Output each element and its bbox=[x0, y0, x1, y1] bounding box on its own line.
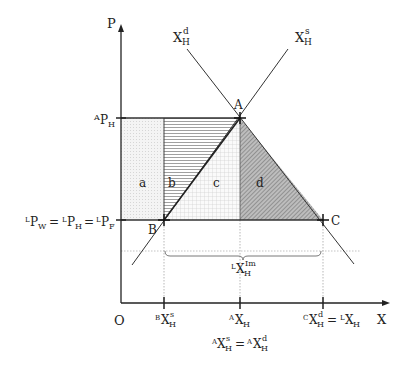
svg-text:H: H bbox=[182, 37, 190, 47]
C-demand-quantity-label: C X d H = L X H bbox=[303, 310, 360, 329]
svg-text:H: H bbox=[225, 344, 232, 353]
B-supply-quantity-label: B X s H bbox=[155, 310, 176, 329]
svg-text:d: d bbox=[183, 26, 189, 36]
svg-text:s: s bbox=[226, 334, 230, 343]
svg-text:P: P bbox=[101, 215, 109, 229]
point-B-label: B bbox=[148, 223, 157, 237]
area-a-label: a bbox=[139, 176, 146, 190]
svg-text:H: H bbox=[169, 320, 176, 329]
y-axis-label: P bbox=[107, 16, 116, 31]
point-C-label: C bbox=[331, 214, 340, 228]
imports-brace bbox=[165, 251, 321, 260]
svg-text:Im: Im bbox=[245, 259, 256, 268]
svg-text:d: d bbox=[318, 310, 323, 319]
svg-text:H: H bbox=[261, 344, 268, 353]
svg-text:B: B bbox=[155, 314, 160, 322]
svg-text:=: = bbox=[84, 215, 94, 229]
svg-text:=: = bbox=[235, 337, 245, 351]
svg-text:P: P bbox=[30, 215, 38, 229]
svg-text:=: = bbox=[327, 313, 337, 327]
A-equality-label: A X s H = A X d H bbox=[211, 334, 268, 353]
svg-text:s: s bbox=[305, 26, 310, 36]
svg-text:H: H bbox=[244, 269, 251, 278]
supply-curve-label: X s H bbox=[295, 26, 312, 47]
svg-text:H: H bbox=[353, 320, 360, 329]
y-axis-arrow-icon bbox=[118, 24, 124, 32]
svg-text:P: P bbox=[67, 215, 75, 229]
imports-label: L X Im H bbox=[231, 259, 256, 278]
trade-diagram: P X O X d H X s H A B C a b c d A P H L … bbox=[0, 0, 414, 368]
svg-text:H: H bbox=[75, 222, 82, 231]
svg-text:H: H bbox=[108, 120, 115, 129]
svg-text:H: H bbox=[317, 320, 324, 329]
area-d-label: d bbox=[256, 176, 264, 190]
svg-text:A: A bbox=[228, 314, 235, 322]
area-c-label: c bbox=[213, 176, 220, 190]
svg-text:P: P bbox=[100, 113, 108, 127]
svg-text:W: W bbox=[38, 222, 47, 231]
demand-curve-label: X d H bbox=[173, 26, 190, 47]
autarky-price-label: A P H bbox=[93, 113, 115, 129]
origin-label: O bbox=[114, 313, 125, 328]
svg-text:A: A bbox=[93, 113, 100, 122]
svg-text:A: A bbox=[246, 338, 253, 346]
x-axis-arrow-icon bbox=[382, 300, 390, 306]
svg-text:F: F bbox=[109, 222, 115, 231]
svg-text:d: d bbox=[262, 334, 267, 343]
area-a bbox=[121, 118, 164, 220]
area-b-label: b bbox=[168, 176, 176, 190]
svg-text:C: C bbox=[303, 314, 308, 322]
svg-text:H: H bbox=[304, 37, 312, 47]
svg-text:=: = bbox=[49, 215, 59, 229]
A-quantity-label: A X H bbox=[228, 313, 250, 329]
point-A-label: A bbox=[233, 98, 243, 112]
svg-text:H: H bbox=[243, 320, 250, 329]
x-axis-label: X bbox=[377, 312, 387, 327]
world-price-label: L P W = L P H = L P F bbox=[25, 215, 115, 231]
svg-text:s: s bbox=[170, 310, 174, 319]
